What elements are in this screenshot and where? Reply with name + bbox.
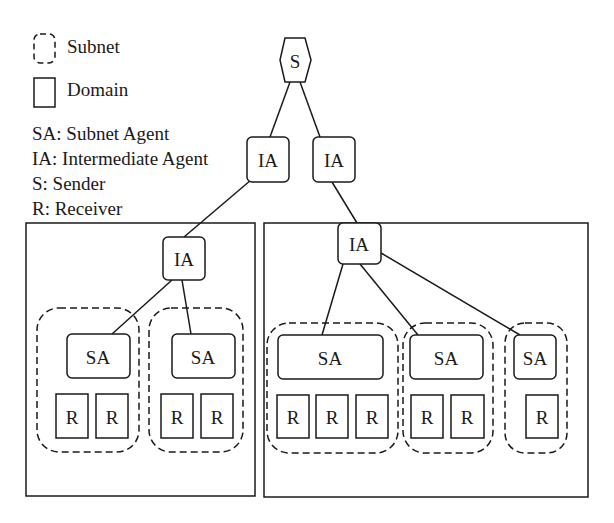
ia-right-domain-label: IA	[349, 234, 369, 255]
receiver-label: R	[171, 407, 184, 428]
sa-left-2-label: SA	[191, 347, 216, 368]
receiver-label: R	[536, 407, 549, 428]
sa-right-1-label: SA	[318, 348, 343, 369]
receiver-label: R	[106, 407, 119, 428]
sa-right-3-label: SA	[523, 348, 548, 369]
ia-top-left-label: IA	[258, 150, 278, 171]
network-diagram: S IA IA IA IA SA SA SA SA SA R R R R R R…	[0, 0, 614, 523]
edge-ia-top-right-ia-right	[332, 182, 357, 223]
edge-s-ia-top-right	[300, 82, 320, 137]
edge-ia-right-sa-right-1	[322, 264, 343, 335]
edge-ia-right-sa-right-2	[360, 264, 418, 335]
sender-label: S	[290, 51, 301, 72]
sa-right-2-label: SA	[434, 348, 459, 369]
edge-ia-top-left-ia-left	[184, 180, 251, 237]
legend-subnet-icon	[34, 34, 55, 63]
ia-left-domain-label: IA	[174, 249, 194, 270]
receiver-label: R	[326, 407, 339, 428]
receiver-label: R	[366, 407, 379, 428]
edge-ia-left-sa-left-2	[182, 280, 191, 334]
receiver-label: R	[461, 407, 474, 428]
receiver-label: R	[421, 407, 434, 428]
ia-top-right-label: IA	[324, 150, 344, 171]
edge-ia-left-sa-left-1	[112, 280, 172, 334]
subnet-left-2	[149, 308, 243, 452]
sa-left-1-label: SA	[86, 347, 111, 368]
receiver-label: R	[66, 407, 79, 428]
edge-s-ia-top-left	[270, 82, 290, 137]
legend-domain-icon	[34, 78, 55, 107]
receiver-label: R	[211, 407, 224, 428]
receiver-label: R	[287, 407, 300, 428]
